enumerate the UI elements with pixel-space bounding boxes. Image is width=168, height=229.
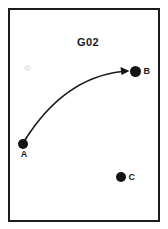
point-a-dot: [18, 139, 28, 149]
point-b-label: B: [144, 67, 151, 76]
point-c-label: C: [129, 173, 136, 182]
diagram-title: G02: [70, 36, 106, 48]
point-a-label: A: [18, 150, 30, 159]
point-c-dot: [116, 172, 126, 182]
point-b-dot: [130, 66, 141, 77]
figure-page: G02 A B C: [0, 0, 168, 229]
scan-smudge-artifact: [24, 65, 31, 71]
